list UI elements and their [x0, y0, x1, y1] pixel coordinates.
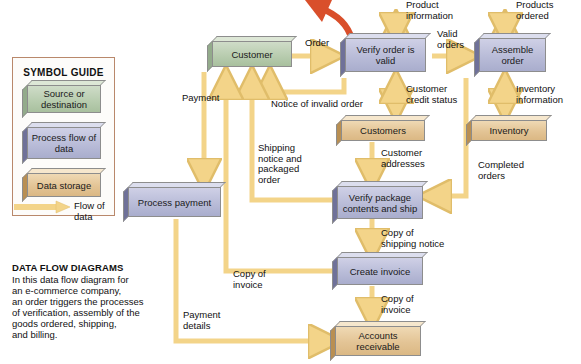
flow-label-customer-credit: Customer credit status: [406, 84, 457, 105]
node-verify-package[interactable]: Verify package contents and ship: [337, 186, 423, 219]
legend-flow-of-data-row: Flow of data: [12, 199, 122, 219]
legend-symbol-process: Process flow of data: [27, 127, 101, 159]
legend-label-data-storage: Data storage: [27, 173, 101, 197]
legend-label-process: Process flow of data: [27, 127, 101, 159]
flow-label-copy-shipping: Copy of shipping notice: [381, 228, 444, 249]
highlight-arrow-icon: [305, 0, 352, 40]
flow-label-copy-invoice-cust: Copy of invoice: [233, 269, 266, 290]
node-customers-store-label: Customers: [341, 120, 425, 141]
node-customer[interactable]: Customer: [212, 41, 292, 67]
flow-label-payment: Payment: [182, 93, 220, 104]
node-verify-order[interactable]: Verify order is valid: [345, 38, 426, 72]
flow-label-inventory-info: Inventory information: [516, 84, 563, 105]
node-process-payment[interactable]: Process payment: [128, 187, 221, 217]
figure-caption: DATA FLOW DIAGRAMS In this data flow dia…: [12, 262, 162, 340]
symbol-guide-legend: SYMBOL GUIDE Source or destination Proce…: [12, 57, 115, 216]
node-inventory-store[interactable]: Inventory: [471, 120, 547, 141]
flow-label-customer-addresses: Customer addresses: [381, 148, 425, 169]
data-flow-diagram: Customer Verify order is valid Assemble …: [0, 0, 581, 364]
node-assemble-order-label: Assemble order: [479, 38, 546, 72]
node-verify-order-label: Verify order is valid: [345, 38, 426, 72]
flow-label-product-information: Product information: [406, 0, 453, 21]
node-verify-package-label: Verify package contents and ship: [337, 186, 423, 219]
flow-label-payment-details: Payment details: [183, 310, 221, 331]
flow-label-order: Order: [305, 38, 329, 49]
flow-label-completed-orders: Completed orders: [478, 160, 524, 181]
node-process-payment-label: Process payment: [128, 187, 221, 217]
node-customers-store[interactable]: Customers: [341, 120, 425, 141]
node-inventory-store-label: Inventory: [471, 120, 547, 141]
flow-label-notice-invalid: Notice of invalid order: [271, 99, 363, 110]
node-create-invoice-label: Create invoice: [337, 257, 423, 285]
flow-label-valid-orders: Valid orders: [437, 29, 464, 50]
caption-title: DATA FLOW DIAGRAMS: [12, 262, 162, 273]
legend-symbol-data-storage: Data storage: [27, 173, 101, 197]
legend-symbol-source-destination: Source or destination: [27, 85, 101, 113]
legend-title: SYMBOL GUIDE: [13, 67, 114, 78]
legend-label-source-destination: Source or destination: [27, 85, 101, 113]
flow-label-shipping-packaged: Shipping notice and packaged order: [258, 143, 302, 185]
caption-body: In this data flow diagram for an e-comme…: [12, 274, 162, 340]
node-customer-label: Customer: [212, 41, 292, 67]
legend-label-flow-of-data: Flow of data: [74, 201, 122, 222]
flow-label-copy-invoice-ar: Copy of invoice: [381, 294, 414, 315]
flow-notice-invalid-order: [270, 72, 344, 92]
node-accounts-receivable[interactable]: Accounts receivable: [335, 326, 421, 356]
flow-label-products-ordered: Products ordered: [516, 0, 554, 21]
node-create-invoice[interactable]: Create invoice: [337, 257, 423, 285]
node-accounts-receivable-label: Accounts receivable: [335, 326, 421, 356]
node-assemble-order[interactable]: Assemble order: [479, 38, 546, 72]
